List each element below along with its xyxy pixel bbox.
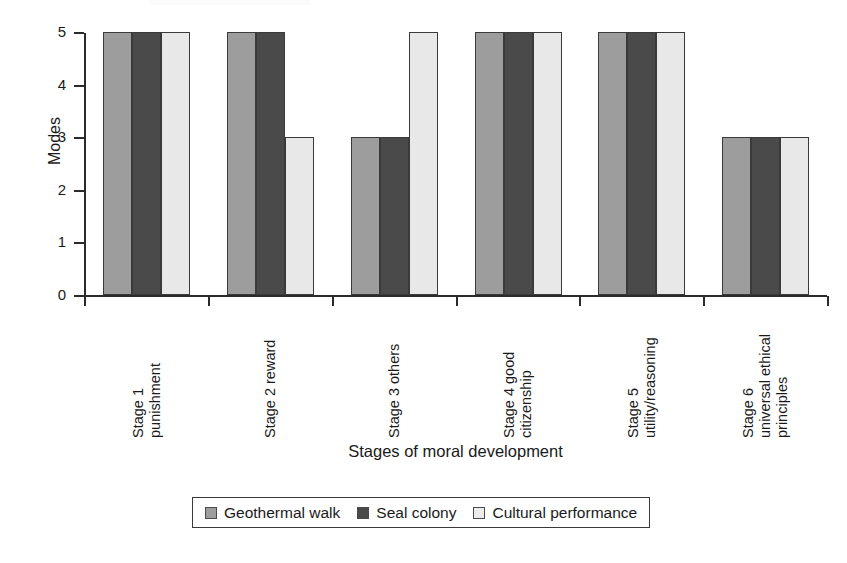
bar [751, 137, 780, 295]
legend-swatch-icon [357, 507, 369, 519]
x-axis-tick [456, 296, 458, 306]
bar-chart: Modes 012345 Stage 1punishmentStage 2 re… [0, 0, 847, 563]
x-axis-label: Stage 3 others [386, 308, 403, 438]
y-axis-tick [74, 32, 84, 34]
x-axis-tick [332, 296, 334, 306]
x-axis-title: Stages of moral development [84, 442, 827, 461]
bar [227, 32, 256, 295]
scan-artifact [150, 0, 310, 5]
x-axis-label-line: principles [774, 334, 791, 438]
x-axis-label-rotated: Stage 6universal ethicalprinciples [740, 306, 791, 438]
x-axis-label-line: Stage 3 others [386, 344, 403, 438]
y-axis-tick-label: 2 [18, 182, 66, 197]
x-axis-label-rotated: Stage 1punishment [130, 306, 164, 438]
bar [627, 32, 656, 295]
y-axis-tick [74, 242, 84, 244]
y-axis-tick-label: 4 [18, 77, 66, 92]
x-axis-label-rotated: Stage 5utility/reasoning [625, 306, 659, 438]
bar [780, 137, 809, 295]
x-axis-label-line: universal ethical [757, 334, 774, 438]
bar [351, 137, 380, 295]
bar [722, 137, 751, 295]
bar [285, 137, 314, 295]
x-axis-label: Stage 6universal ethicalprinciples [740, 308, 791, 438]
y-axis-tick-label: 0 [18, 287, 66, 302]
x-axis-label: Stage 5utility/reasoning [625, 308, 659, 438]
legend-swatch-icon [473, 507, 485, 519]
y-axis-tick [74, 295, 84, 297]
x-axis-label-line: Stage 5 [625, 337, 642, 438]
x-axis-label-rotated: Stage 2 reward [262, 306, 279, 438]
x-axis-tick [579, 296, 581, 306]
y-axis-tick-label: 1 [18, 234, 66, 249]
y-axis-tick-label: 3 [18, 129, 66, 144]
legend-label: Seal colony [376, 505, 456, 521]
bar [161, 32, 190, 295]
x-axis-label: Stage 2 reward [262, 308, 279, 438]
bar-group [103, 33, 190, 295]
chart-legend: Geothermal walkSeal colonyCultural perfo… [192, 497, 650, 528]
bar-group [351, 33, 438, 295]
y-axis-tick [74, 85, 84, 87]
x-axis-label: Stage 4 goodcitizenship [501, 308, 535, 438]
bar [256, 32, 285, 295]
x-axis-label-line: Stage 1 [130, 363, 147, 438]
bar [533, 32, 562, 295]
y-axis-tick [74, 190, 84, 192]
legend-item: Seal colony [357, 505, 456, 521]
x-axis-label-rotated: Stage 4 goodcitizenship [501, 306, 535, 438]
x-axis-tick [827, 296, 829, 306]
legend-label: Geothermal walk [224, 505, 340, 521]
x-axis-label-line: utility/reasoning [642, 337, 659, 438]
bar [504, 32, 533, 295]
x-axis-label: Stage 1punishment [130, 308, 164, 438]
x-axis-label-line: Stage 2 reward [262, 340, 279, 438]
bar-group [598, 33, 685, 295]
legend-item: Cultural performance [473, 505, 637, 521]
bar [475, 32, 504, 295]
y-axis-tick-label: 5 [18, 24, 66, 39]
x-axis-tick [703, 296, 705, 306]
x-axis-label-line: Stage 6 [740, 334, 757, 438]
bar [656, 32, 685, 295]
bar [103, 32, 132, 295]
bar [380, 137, 409, 295]
y-axis-tick [74, 137, 84, 139]
x-axis-label-line: Stage 4 good [501, 352, 518, 438]
legend-swatch-icon [205, 507, 217, 519]
legend-label: Cultural performance [492, 505, 637, 521]
x-axis-label-rotated: Stage 3 others [386, 306, 403, 438]
legend-item: Geothermal walk [205, 505, 340, 521]
plot-area [84, 33, 827, 295]
x-axis-label-line: punishment [147, 363, 164, 438]
bar-group [227, 33, 314, 295]
x-axis-label-line: citizenship [518, 352, 535, 438]
bar [132, 32, 161, 295]
x-axis-tick [208, 296, 210, 306]
bar-group [475, 33, 562, 295]
bar [598, 32, 627, 295]
x-axis-tick [84, 296, 86, 306]
bar-group [722, 33, 809, 295]
bar [409, 32, 438, 295]
